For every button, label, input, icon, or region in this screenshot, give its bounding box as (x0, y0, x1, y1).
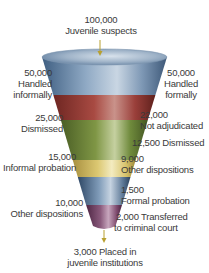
label-juvenile-suspects: 100,000 Juvenile suspects (55, 14, 147, 36)
line: Not adjudicated (140, 120, 203, 131)
label-handled-informally: 50,000 Handled informally (0, 67, 52, 100)
line: Other dispositions (121, 164, 193, 175)
label-other-dispositions-left: 10,000 Other dispositions (0, 197, 83, 219)
count: 22,000 (140, 109, 203, 120)
line: formally (154, 89, 208, 100)
label-transferred-criminal-court: 2,000 Transferred to criminal court (114, 211, 188, 233)
line: informally (0, 89, 52, 100)
top-count: 100,000 (55, 14, 147, 25)
line: juvenile institutions (50, 257, 160, 268)
label-dismissed-right: 12,500 Dismissed (132, 137, 204, 148)
line: to criminal court (114, 222, 188, 233)
label-handled-formally: 50,000 Handled formally (154, 67, 208, 100)
line: 3,000 Placed in (50, 246, 160, 257)
count: 9,000 (121, 153, 193, 164)
line: 2,000 Transferred (114, 211, 188, 222)
line: Formal probation (121, 195, 190, 206)
count: 50,000 (0, 67, 52, 78)
count: 50,000 (154, 67, 208, 78)
funnel-rim (42, 49, 167, 65)
top-label: Juvenile suspects (55, 25, 147, 36)
bottom-arrow-head (102, 238, 107, 243)
line: Other dispositions (0, 208, 83, 219)
label-dismissed-left: 25,000 Dismissed (0, 112, 63, 134)
label-formal-probation: 1,500 Formal probation (121, 184, 190, 206)
label-placed-juvenile-institutions: 3,000 Placed in juvenile institutions (50, 246, 160, 268)
label-not-adjudicated: 22,000 Not adjudicated (140, 109, 203, 131)
line: Handled (154, 78, 208, 89)
label-informal-probation: 15,000 Informal probation (0, 151, 76, 173)
line: Informal probation (0, 162, 76, 173)
line: Dismissed (0, 123, 63, 134)
count: 25,000 (0, 112, 63, 123)
count: 10,000 (0, 197, 83, 208)
count: 15,000 (0, 151, 76, 162)
count: 1,500 (121, 184, 190, 195)
label-other-dispositions-right: 9,000 Other dispositions (121, 153, 193, 175)
line: Handled (0, 78, 52, 89)
line: 12,500 Dismissed (132, 137, 204, 148)
